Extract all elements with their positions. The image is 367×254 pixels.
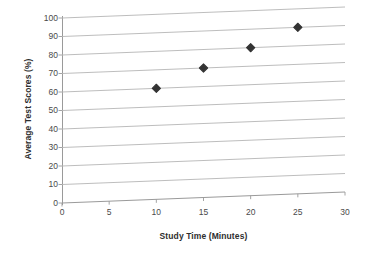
y-tick-label: 70: [32, 69, 58, 78]
gridline: [62, 26, 345, 37]
x-axis-title: Study Time (Minutes): [62, 231, 345, 241]
gridline: [62, 118, 345, 129]
gridline: [62, 155, 345, 166]
gridline: [62, 100, 345, 111]
y-tick-label: 30: [32, 143, 58, 152]
x-tick-label: 25: [283, 208, 313, 217]
y-tick-label: 20: [32, 162, 58, 171]
y-tick-label: 40: [32, 125, 58, 134]
data-point-marker[interactable]: [199, 64, 207, 72]
x-tick-label: 10: [141, 208, 171, 217]
plot-canvas: [62, 18, 351, 215]
x-tick-label: 15: [189, 208, 219, 217]
x-tick-label: 0: [47, 208, 77, 217]
data-point-marker[interactable]: [152, 84, 160, 92]
gridline: [62, 137, 345, 148]
y-tick-label: 90: [32, 32, 58, 41]
y-tick-label: 0: [32, 199, 58, 208]
plot-area: [62, 18, 345, 203]
data-point-marker[interactable]: [294, 23, 302, 31]
y-tick-label: 50: [32, 106, 58, 115]
x-tick-label: 20: [236, 208, 266, 217]
y-tick-label: 10: [32, 180, 58, 189]
x-tick-label: 30: [330, 208, 360, 217]
scatter-chart: Average Test Scores (%) 0102030405060708…: [0, 0, 367, 254]
y-tick-label: 80: [32, 51, 58, 60]
gridline: [62, 174, 345, 185]
x-axis-tick-labels: 051015202530: [0, 208, 367, 224]
gridline: [62, 44, 345, 55]
y-tick-label: 100: [32, 14, 58, 23]
data-point-marker[interactable]: [247, 44, 255, 52]
gridline: [62, 81, 345, 92]
y-tick-label: 60: [32, 88, 58, 97]
x-tick-label: 5: [94, 208, 124, 217]
gridline: [62, 7, 345, 18]
